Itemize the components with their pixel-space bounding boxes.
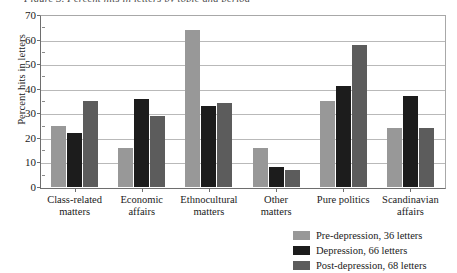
bar <box>253 148 268 187</box>
bar <box>185 30 200 187</box>
legend-item: Depression, 66 letters <box>293 243 457 257</box>
bar-group <box>377 15 444 187</box>
bar <box>285 170 300 187</box>
legend-swatch <box>293 261 310 270</box>
bar <box>269 167 284 187</box>
x-axis-label: Economicaffairs <box>108 194 175 218</box>
legend-item: Pre-depression, 36 letters <box>293 228 457 242</box>
x-axis-label-line: Economic <box>108 194 175 206</box>
bar <box>419 128 434 187</box>
x-axis-label-line: matters <box>41 206 108 218</box>
bar-group <box>243 15 310 187</box>
bar-group <box>41 15 108 187</box>
legend-label: Pre-depression, 36 letters <box>316 230 422 241</box>
x-tick <box>276 188 277 192</box>
x-axis-label: Othermatters <box>243 194 310 218</box>
y-axis-tick-labels: 010203040506070 <box>0 0 36 273</box>
legend-swatch <box>293 246 310 255</box>
x-tick <box>343 188 344 192</box>
x-axis-label: Class-relatedmatters <box>41 194 108 218</box>
y-tick-label: 70 <box>2 10 36 21</box>
bar <box>352 45 367 188</box>
x-tick <box>410 188 411 192</box>
x-axis-label-line: matters <box>175 206 242 218</box>
bar <box>403 96 418 187</box>
x-axis-label: Scandinavianaffairs <box>377 194 444 218</box>
bar-group <box>108 15 175 187</box>
x-axis-label-line: Other <box>243 194 310 206</box>
bar <box>51 126 66 187</box>
x-axis-label: Ethnoculturalmatters <box>175 194 242 218</box>
bar <box>217 103 232 187</box>
legend-item: Post-depression, 68 letters <box>293 258 457 272</box>
bar <box>201 106 216 187</box>
y-tick-label: 10 <box>2 157 36 168</box>
x-axis-label-line: Scandinavian <box>377 194 444 206</box>
x-axis-label-line: Pure politics <box>310 194 377 206</box>
clipped-caption-fragment: Figure 3. Percent hits in letters by top… <box>24 0 444 2</box>
bar <box>336 86 351 187</box>
x-axis-label-line: Ethnocultural <box>175 194 242 206</box>
bar-group <box>175 15 242 187</box>
x-axis-label: Pure politics <box>310 194 377 206</box>
x-axis-label-line: Class-related <box>41 194 108 206</box>
bar <box>150 116 165 187</box>
y-tick-label: 50 <box>2 59 36 70</box>
bar-chart-figure: Figure 3. Percent hits in letters by top… <box>0 0 457 273</box>
y-tick-label: 20 <box>2 133 36 144</box>
bar <box>134 99 149 187</box>
y-tick-label: 0 <box>2 182 36 193</box>
y-tick-label: 60 <box>2 35 36 46</box>
x-axis-label-line: matters <box>243 206 310 218</box>
legend-label: Depression, 66 letters <box>316 245 407 256</box>
bar <box>118 148 133 187</box>
bar <box>320 101 335 187</box>
x-axis-label-line: affairs <box>108 206 175 218</box>
legend-swatch <box>293 231 310 240</box>
x-tick <box>142 188 143 192</box>
bar <box>67 133 82 187</box>
legend-label: Post-depression, 68 letters <box>316 260 427 271</box>
bar <box>387 128 402 187</box>
bar <box>83 101 98 187</box>
x-tick <box>209 188 210 192</box>
chart-legend: Pre-depression, 36 lettersDepression, 66… <box>293 228 457 273</box>
y-tick-label: 30 <box>2 108 36 119</box>
x-axis-label-line: affairs <box>377 206 444 218</box>
bar-group <box>310 15 377 187</box>
x-tick <box>75 188 76 192</box>
bars-layer <box>41 15 444 187</box>
y-tick-label: 40 <box>2 84 36 95</box>
